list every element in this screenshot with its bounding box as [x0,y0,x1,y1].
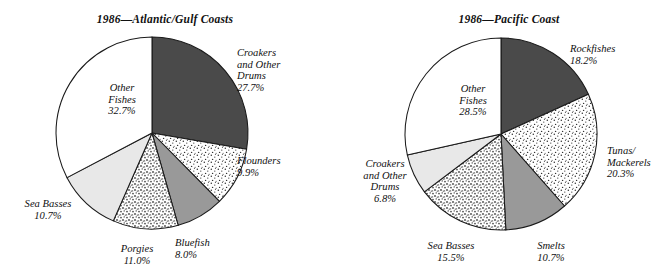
pie-slice-label: Croakers and Other Drums 27.7% [237,47,280,93]
pie-slice-label: Smelts 10.7% [503,240,599,263]
pie-slice-value: 15.5% [437,252,464,263]
pie-slices-layer [0,0,671,277]
pie-slice-value: 9.9% [237,167,259,178]
pie-slice-name: Other Fishes [108,82,136,105]
pie-slice-value: 20.3% [607,168,634,179]
pie-slice-label: Rockfishes 18.2% [570,43,615,66]
pie-slice-value: 10.7% [34,210,61,221]
pie-slice-name: Smelts [537,240,565,251]
pie-slice-value: 11.0% [124,255,151,266]
pie-slice-name: Porgies [121,243,154,254]
pie-slice-label: Porgies 11.0% [89,243,185,266]
pie-slice-name: Sea Basses [428,240,475,251]
pie-slice-label: Sea Basses 15.5% [403,240,499,263]
pie-slice-value: 32.7% [108,105,135,116]
pie-slice-name: Croakers and Other Drums [363,158,406,192]
pie-slice-name: Sea Basses [25,198,72,209]
pie-chart-figure: 1986—Atlantic/Gulf Coasts 1986—Pacific C… [0,0,671,277]
pie-slice-value: 6.8% [374,193,396,204]
pie-slice-name: Rockfishes [570,43,615,54]
pie-slice-value: 18.2% [570,55,597,66]
pie-slice-label: Other Fishes 28.5% [425,83,521,118]
pie-slice-label: Croakers and Other Drums 6.8% [337,158,433,204]
pie-slice-label: Flounders 9.9% [237,155,281,178]
pie-slice-value: 28.5% [459,106,486,117]
pie-slice-label: Other Fishes 32.7% [74,82,170,117]
pie-slice-label: Tunas/ Mackerels 20.3% [607,145,651,180]
pie-slice-name: Flounders [237,155,281,166]
pie-slice-name: Other Fishes [459,83,487,106]
pie-slice-value: 27.7% [237,82,264,93]
pie-slice-name: Tunas/ Mackerels [607,145,651,168]
pie-slice-label: Sea Basses 10.7% [0,198,96,221]
pie-slice-name: Croakers and Other Drums [237,47,280,81]
pie-slice-value: 10.7% [537,252,564,263]
